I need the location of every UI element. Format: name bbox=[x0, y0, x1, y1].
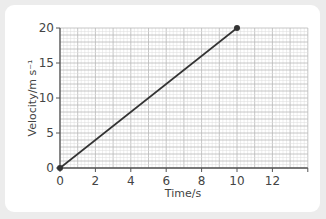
y-axis-label: Velocity/m s⁻¹ bbox=[26, 59, 39, 136]
x-tick-labels: 024681012 bbox=[56, 174, 280, 188]
x-tick-label: 8 bbox=[198, 174, 206, 188]
y-tick-label: 10 bbox=[39, 91, 54, 105]
data-point-marker bbox=[57, 165, 63, 171]
grid bbox=[60, 28, 308, 168]
y-tick-label: 20 bbox=[39, 21, 54, 35]
x-axis-label: Time/s bbox=[164, 187, 202, 200]
velocity-time-chart: 024681012 05101520 Time/s Velocity/m s⁻¹ bbox=[0, 0, 326, 219]
y-tick-labels: 05101520 bbox=[39, 21, 54, 175]
y-tick-label: 0 bbox=[46, 161, 54, 175]
x-tick-label: 2 bbox=[92, 174, 100, 188]
x-tick-label: 10 bbox=[229, 174, 244, 188]
y-tick-label: 15 bbox=[39, 56, 54, 70]
y-tick-label: 5 bbox=[46, 126, 54, 140]
data-point-marker bbox=[234, 25, 240, 31]
x-tick-label: 0 bbox=[56, 174, 64, 188]
x-tick-label: 4 bbox=[127, 174, 135, 188]
x-tick-label: 6 bbox=[162, 174, 170, 188]
x-tick-label: 12 bbox=[265, 174, 280, 188]
